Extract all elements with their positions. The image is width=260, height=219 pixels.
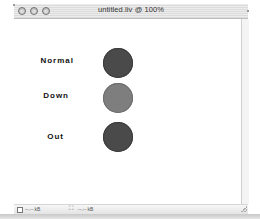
document-window: untitled.liv @ 100% Normal Down Out --.-… — [14, 4, 248, 213]
state-label-normal: Normal — [14, 56, 74, 65]
divider — [0, 214, 260, 219]
compressed-size-icon: ⛶ — [69, 205, 73, 212]
button-state-normal-circle[interactable] — [103, 48, 133, 78]
compressed-size: --.-- kB — [78, 206, 93, 212]
corner-marker — [247, 10, 249, 12]
button-state-down-circle[interactable] — [103, 83, 133, 113]
window-title: untitled.liv @ 100% — [14, 5, 248, 14]
vertical-scrollbar[interactable] — [241, 19, 249, 204]
state-label-down: Down — [9, 91, 69, 100]
corner-marker — [13, 4, 15, 6]
state-label-out: Out — [4, 132, 64, 141]
document-size: --.-- kB — [25, 206, 40, 212]
status-bar: --.-- kB ⛶ --.-- kB — [14, 204, 248, 214]
document-size-icon — [17, 207, 23, 213]
canvas[interactable]: Normal Down Out — [14, 19, 241, 204]
title-bar[interactable]: untitled.liv @ 100% — [14, 4, 248, 19]
button-state-out-circle[interactable] — [103, 122, 133, 152]
resize-grip-icon[interactable] — [241, 206, 247, 212]
